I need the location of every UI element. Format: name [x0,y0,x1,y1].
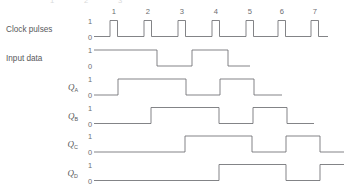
waveform-q_d [94,165,344,181]
signal-label-q_d: QD [68,168,79,179]
level-low-label-q_b: 0 [88,120,92,129]
clock-pulse-number-4: 4 [214,7,218,16]
logic-level-labels: 101010101010 [88,17,92,186]
level-low-label-clock: 0 [88,33,92,42]
level-low-label-input_data: 0 [88,62,92,71]
clock-pulse-numbers: 1234567 [112,7,317,16]
waveform-q_a [94,79,282,95]
clock-pulse-number-6: 6 [280,7,284,16]
level-low-label-q_c: 0 [88,148,92,157]
clock-pulse-number-3: 3 [180,7,184,16]
level-high-label-q_a: 1 [88,75,92,84]
signal-label-q_a: QA [68,82,79,93]
timing-diagram: 123 1234567 Clock pulsesInput dataQAQBQC… [0,0,344,189]
clock-pulse-number-2: 2 [146,7,150,16]
level-high-label-q_c: 1 [88,132,92,141]
waveform-q_c [94,136,344,152]
level-high-label-q_b: 1 [88,104,92,113]
clock-pulse-number-5: 5 [248,7,252,16]
waveform-input_data [94,50,250,66]
level-low-label-q_a: 0 [88,91,92,100]
signal-name-labels: Clock pulsesInput dataQAQBQCQD [6,25,78,179]
timing-diagram-svg: 1234567 Clock pulsesInput dataQAQBQCQD 1… [0,0,344,189]
signal-label-clock: Clock pulses [6,25,52,34]
level-low-label-q_d: 0 [88,177,92,186]
waveforms [94,21,344,181]
waveform-clock [94,21,328,37]
level-high-label-clock: 1 [88,17,92,26]
clock-pulse-number-7: 7 [313,7,317,16]
level-high-label-q_d: 1 [88,161,92,170]
clock-pulse-number-1: 1 [112,7,116,16]
waveform-q_b [94,108,314,124]
signal-label-q_b: QB [68,111,79,122]
signal-label-q_c: QC [68,139,79,150]
level-high-label-input_data: 1 [88,46,92,55]
signal-label-input_data: Input data [6,54,43,63]
